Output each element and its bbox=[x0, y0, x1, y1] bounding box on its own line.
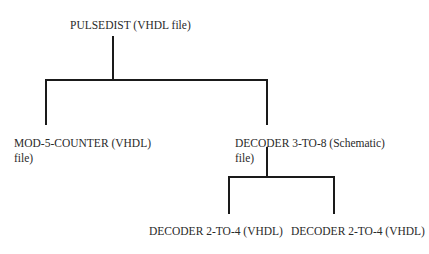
level1-bar-line bbox=[45, 79, 267, 81]
mod5-counter-line1: MOD-5-COUNTER (VHDL) bbox=[14, 136, 151, 151]
decoder-3to8-label: DECODER 3-TO-8 (Schematic) file) bbox=[235, 136, 385, 166]
mod5-counter-line2: file) bbox=[14, 151, 151, 166]
root-stem-line bbox=[112, 36, 114, 80]
level2-left-drop-line bbox=[228, 176, 230, 214]
left-drop-line bbox=[45, 79, 47, 125]
decoder-2to4-right-label: DECODER 2-TO-4 (VHDL) bbox=[291, 224, 425, 239]
level2-bar-line bbox=[228, 176, 335, 178]
mod5-counter-label: MOD-5-COUNTER (VHDL) file) bbox=[14, 136, 151, 166]
decoder-2to4-left-label: DECODER 2-TO-4 (VHDL) bbox=[149, 224, 283, 239]
decoder-stem-line bbox=[266, 147, 268, 177]
decoder-3to8-line1: DECODER 3-TO-8 (Schematic) bbox=[235, 136, 385, 151]
decoder-3to8-line2: file) bbox=[235, 151, 385, 166]
level2-right-drop-line bbox=[333, 176, 335, 214]
right-drop-line bbox=[266, 79, 268, 125]
root-node-label: PULSEDIST (VHDL file) bbox=[70, 18, 191, 33]
